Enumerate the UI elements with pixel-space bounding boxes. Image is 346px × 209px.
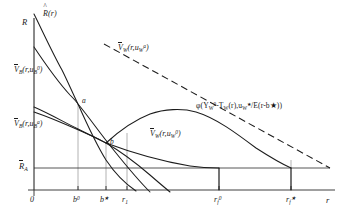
VB-u0-args: (r,u bbox=[22, 65, 33, 74]
tick-label-bstar: b★ bbox=[100, 196, 109, 204]
x-axis-label: r bbox=[326, 196, 329, 205]
tick-rfstar-sup: ★ bbox=[291, 195, 296, 201]
VW-ua-tail: ) bbox=[146, 43, 149, 52]
tick-label-r1: r1 bbox=[122, 196, 128, 205]
tick-r1-sub: 1 bbox=[125, 199, 128, 205]
R-hat-base: R bbox=[43, 9, 48, 18]
VB-ua-args: (r,u bbox=[22, 119, 33, 128]
VW-u0-tail: ) bbox=[178, 129, 181, 138]
agricultural-rent-label: RA bbox=[19, 162, 28, 172]
curve-VB-u0 bbox=[34, 47, 150, 192]
label-VB-u0: VB(r,uB0) bbox=[14, 66, 42, 75]
phi-minus: -T bbox=[216, 101, 223, 110]
VB-u0-tail: ) bbox=[40, 65, 43, 74]
origin-label: 0 bbox=[30, 196, 34, 204]
figure-container: R r 0 RA R(r) VB(r,uB0) VB(r,uBa) VW(r,u… bbox=[0, 0, 346, 209]
label-VW-u0: VW(r,uW0) bbox=[150, 130, 181, 139]
tick-label-b0: b0 bbox=[73, 196, 80, 204]
R-hat-args: (r) bbox=[48, 9, 57, 18]
tick-label-rf0: rf0 bbox=[214, 196, 221, 205]
VW-u0-base: V bbox=[150, 129, 155, 138]
label-phi-formula: φ(YW0-TW(r),uW★/E(r-b★)) bbox=[196, 102, 282, 111]
phi-t-args: (r),u bbox=[228, 101, 242, 110]
tick-label-rfstar: rf★ bbox=[286, 196, 296, 205]
VW-u0-args: (r,u bbox=[160, 129, 171, 138]
phi-denom: /E(r-b★)) bbox=[251, 101, 282, 110]
agricultural-rent-base: R bbox=[19, 161, 24, 171]
VB-u0-base: V bbox=[14, 65, 19, 74]
VB-ua-base: V bbox=[14, 119, 19, 128]
tick-rf0-sup: 0 bbox=[219, 195, 222, 201]
curve-phi bbox=[106, 110, 291, 168]
VB-ua-tail: ) bbox=[40, 119, 43, 128]
VW-ua-args: (r,u bbox=[128, 43, 139, 52]
label-R-hat: R(r) bbox=[43, 10, 57, 18]
tick-bstar-sup: ★ bbox=[104, 195, 109, 201]
label-VW-ua: VW(r,uWa) bbox=[118, 44, 149, 53]
tick-b0-sup: 0 bbox=[77, 195, 80, 201]
figure-plot bbox=[0, 0, 346, 209]
VW-ua-base: V bbox=[118, 43, 123, 52]
point-label-b: b bbox=[110, 138, 114, 146]
point-label-a: a bbox=[82, 97, 86, 105]
x-axis-ticks bbox=[78, 186, 291, 190]
label-VB-ua: VB(r,uBa) bbox=[14, 120, 42, 129]
y-axis-label: R bbox=[22, 18, 27, 27]
agricultural-rent-sub: A bbox=[24, 166, 28, 172]
